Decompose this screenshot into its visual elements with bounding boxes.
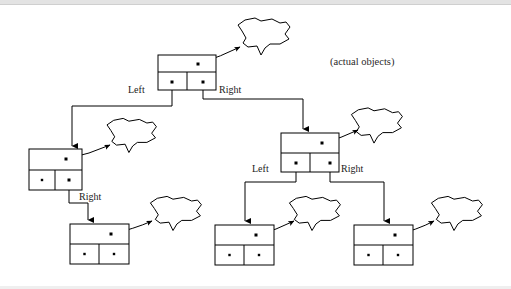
leaf-node-middle-data-pointer-dot	[255, 234, 258, 237]
left-child-node-left-null-dot	[41, 179, 43, 181]
figure-canvas: LeftRightRightLeftRight (actual objects)	[0, 0, 511, 289]
object-blob-right-child	[351, 108, 402, 143]
pointer-label-root-left: Left	[128, 84, 145, 95]
object-blob-root	[238, 18, 290, 55]
leaf-node-right-right-null-dot	[397, 254, 399, 256]
leaf-node-left-left-null-dot	[83, 253, 85, 255]
leaf-node-middle-left-null-dot	[228, 254, 230, 256]
edge-root-to-right-child	[203, 82, 303, 129]
leaf-node-left	[70, 224, 129, 264]
object-blobs-layer	[107, 18, 482, 231]
leaf-node-middle-right-null-dot	[258, 254, 260, 256]
root-node-left-pointer-dot	[171, 81, 174, 84]
right-child-node-data-pointer-dot	[321, 142, 324, 145]
object-blob-leaf-middle	[289, 196, 340, 230]
root-node-data-pointer-dot	[197, 63, 200, 66]
leaf-node-middle	[215, 225, 274, 265]
object-blob-left-child	[107, 118, 156, 152]
binary-tree-diagram: LeftRightRightLeftRight (actual objects)	[0, 0, 511, 289]
pointer-label-n2-right: Right	[79, 191, 101, 202]
pointer-label-root-right: Right	[219, 84, 241, 95]
right-child-node	[281, 133, 339, 172]
root-node-right-pointer-dot	[202, 81, 205, 84]
right-child-node-left-pointer-dot	[295, 162, 298, 165]
leaf-node-right-data-pointer-dot	[394, 234, 397, 237]
left-child-node	[29, 149, 82, 190]
root-node	[158, 55, 216, 90]
leaf-node-left-right-null-dot	[113, 253, 115, 255]
pointer-label-n3-left: Left	[252, 163, 269, 174]
leaf-node-right	[354, 225, 413, 265]
object-blob-leaf-left	[150, 196, 201, 230]
pointer-label-n3-right: Right	[341, 163, 363, 174]
left-child-node-right-pointer-dot	[68, 179, 71, 182]
left-child-node-data-pointer-dot	[65, 158, 68, 161]
leaf-node-left-data-pointer-dot	[110, 233, 113, 236]
right-child-node-right-pointer-dot	[329, 162, 332, 165]
leaf-node-right-left-null-dot	[367, 254, 369, 256]
actual-objects-caption: (actual objects)	[330, 56, 395, 68]
object-blob-leaf-right	[431, 196, 482, 230]
